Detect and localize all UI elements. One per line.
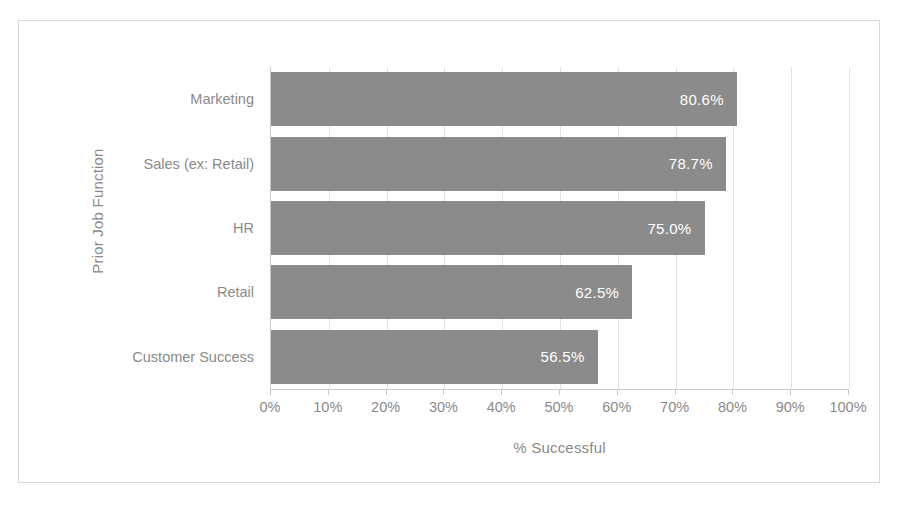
x-tick-label: 80%: [718, 399, 747, 415]
axis-tick: [270, 390, 271, 395]
bar-value-label: 75.0%: [647, 220, 691, 237]
category-label-sales: Sales (ex: Retail): [99, 131, 262, 195]
axis-tick: [328, 390, 329, 395]
bar-customer-success[interactable]: 56.5%: [271, 330, 598, 384]
bar-value-label: 56.5%: [541, 348, 585, 365]
table-row: 78.7%: [271, 131, 849, 195]
axis-tick: [501, 390, 502, 395]
category-label-marketing: Marketing: [99, 67, 262, 131]
axis-tick: [675, 390, 676, 395]
x-tick-label: 100%: [829, 399, 866, 415]
x-axis-ticks: [270, 390, 849, 395]
axis-tick: [443, 390, 444, 395]
category-label-retail: Retail: [99, 260, 262, 324]
axis-tick: [617, 390, 618, 395]
category-label-hr: HR: [99, 196, 262, 260]
x-tick-label: 20%: [371, 399, 400, 415]
table-row: 62.5%: [271, 260, 849, 324]
bar-marketing[interactable]: 80.6%: [271, 72, 737, 126]
category-axis: Marketing Sales (ex: Retail) HR Retail C…: [99, 67, 262, 389]
chart-frame: Prior Job Function Marketing Sales (ex: …: [18, 20, 880, 483]
bar-retail[interactable]: 62.5%: [271, 265, 632, 319]
gridline: [849, 67, 850, 389]
x-tick-label: 40%: [487, 399, 516, 415]
x-tick-label: 10%: [313, 399, 342, 415]
x-tick-label: 70%: [660, 399, 689, 415]
axis-tick: [559, 390, 560, 395]
bar-hr[interactable]: 75.0%: [271, 201, 705, 255]
category-label-customer-success: Customer Success: [99, 325, 262, 389]
x-axis-tick-labels: 0%10%20%30%40%50%60%70%80%90%100%: [270, 399, 849, 421]
bar-value-label: 62.5%: [575, 284, 619, 301]
table-row: 75.0%: [271, 196, 849, 260]
x-tick-label: 90%: [776, 399, 805, 415]
x-tick-label: 0%: [260, 399, 281, 415]
x-axis-title: % Successful: [270, 439, 849, 456]
bar-value-label: 78.7%: [669, 155, 713, 172]
bars-layer: 80.6% 78.7% 75.0% 62.5% 56.5%: [271, 67, 849, 389]
x-tick-label: 50%: [544, 399, 573, 415]
bar-value-label: 80.6%: [680, 91, 724, 108]
axis-tick: [386, 390, 387, 395]
axis-tick: [848, 390, 849, 395]
table-row: 80.6%: [271, 67, 849, 131]
table-row: 56.5%: [271, 325, 849, 389]
x-tick-label: 30%: [429, 399, 458, 415]
axis-tick: [732, 390, 733, 395]
bar-sales[interactable]: 78.7%: [271, 137, 726, 191]
x-tick-label: 60%: [602, 399, 631, 415]
axis-tick: [790, 390, 791, 395]
plot-area: 80.6% 78.7% 75.0% 62.5% 56.5%: [270, 67, 849, 389]
